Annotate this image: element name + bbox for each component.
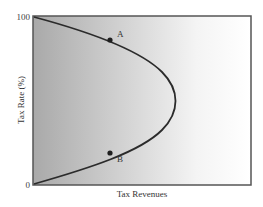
x-axis-label: Tax Revenues	[117, 189, 168, 199]
y-tick-0: 0	[26, 180, 31, 190]
y-tick-100: 100	[17, 12, 31, 22]
point-a-label: A	[117, 29, 124, 39]
point-b-label: B	[117, 154, 123, 164]
point-a-marker	[107, 37, 112, 42]
plot-area	[33, 16, 251, 185]
point-b-marker	[107, 150, 112, 155]
laffer-curve-chart: A B 100 0 Tax Rate (%) Tax Revenues	[0, 0, 263, 207]
y-axis-label: Tax Rate (%)	[16, 76, 26, 124]
